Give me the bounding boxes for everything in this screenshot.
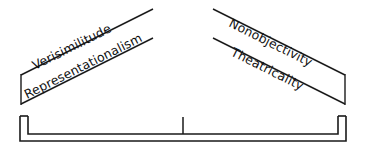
diagram-canvas: Verisimilitude Representationalism Nonob… [0,0,366,152]
diagram-svg: Verisimilitude Representationalism Nonob… [0,0,366,152]
